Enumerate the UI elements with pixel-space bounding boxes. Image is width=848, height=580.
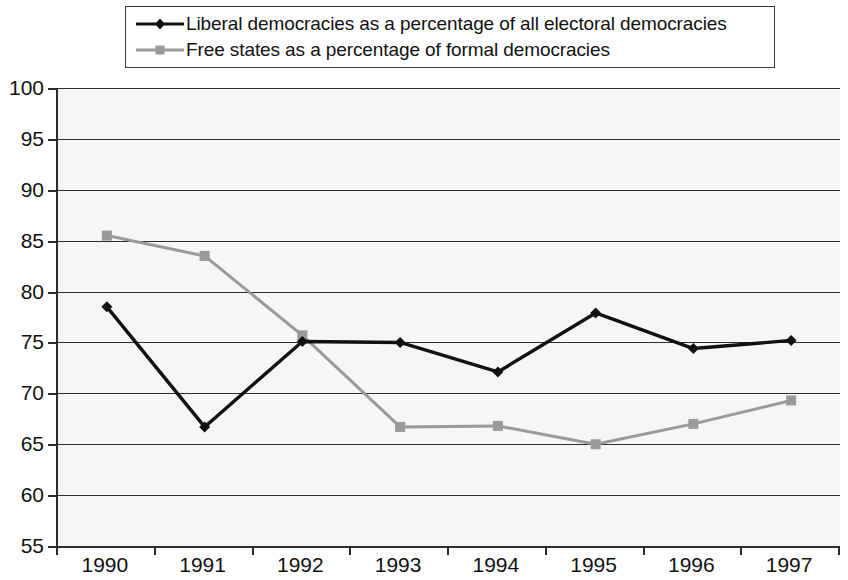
y-axis-tick-label: 65 [0, 432, 44, 456]
y-axis-tick-label: 85 [0, 229, 44, 253]
x-axis-tick-label: 1990 [50, 553, 160, 577]
y-axis-tick-label: 55 [0, 534, 44, 558]
series-line [107, 236, 791, 445]
plot-area [56, 88, 840, 548]
y-axis-tick-label: 60 [0, 483, 44, 507]
y-axis-tick-label: 80 [0, 280, 44, 304]
data-point-marker [493, 421, 503, 431]
legend-label-liberal-democracies: Liberal democracies as a percentage of a… [186, 13, 727, 35]
plot-inner [58, 88, 840, 546]
data-point-marker [200, 251, 210, 261]
series-2 [102, 231, 796, 450]
chart-legend: Liberal democracies as a percentage of a… [125, 6, 775, 68]
y-axis-tick-label: 100 [0, 76, 44, 100]
data-point-marker [591, 439, 601, 449]
series-1 [101, 301, 796, 432]
y-axis-tick-label: 70 [0, 381, 44, 405]
y-axis-tick-label: 75 [0, 330, 44, 354]
legend-entry-liberal-democracies: Liberal democracies as a percentage of a… [134, 11, 774, 37]
line-chart: Liberal democracies as a percentage of a… [0, 0, 848, 580]
data-point-marker [395, 337, 406, 348]
legend-key-square-icon [134, 39, 186, 61]
x-axis-tick-label: 1993 [343, 553, 453, 577]
x-axis-tick-label: 1994 [441, 553, 551, 577]
series-line [107, 307, 791, 427]
data-point-marker [786, 335, 797, 346]
data-point-marker [688, 343, 699, 354]
legend-key-diamond-icon [134, 13, 186, 35]
series-layer [58, 88, 840, 546]
x-axis-tick-label: 1991 [148, 553, 258, 577]
data-point-marker [102, 231, 112, 241]
legend-label-free-states: Free states as a percentage of formal de… [186, 39, 610, 61]
y-axis-tick-label: 95 [0, 127, 44, 151]
data-point-marker [395, 422, 405, 432]
x-axis-tick-label: 1997 [734, 553, 844, 577]
data-point-marker [786, 395, 796, 405]
x-axis-tick-label: 1995 [539, 553, 649, 577]
y-axis-tick-label: 90 [0, 178, 44, 202]
legend-entry-free-states: Free states as a percentage of formal de… [134, 37, 774, 63]
x-axis-tick-label: 1996 [636, 553, 746, 577]
x-axis-tick-label: 1992 [245, 553, 355, 577]
data-point-marker [688, 419, 698, 429]
